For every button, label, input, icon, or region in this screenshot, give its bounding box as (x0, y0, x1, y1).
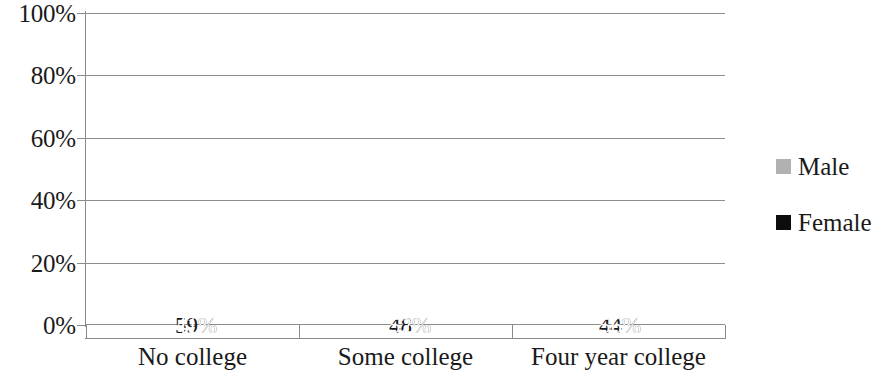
y-axis-label-80: 80% (2, 63, 76, 88)
x-axis-label-four-year-college: Four year college (512, 343, 725, 371)
gridline-100 (85, 13, 725, 14)
x-axis-tick-end (725, 325, 726, 338)
y-axis-tick-0 (77, 325, 85, 326)
y-axis-label-20: 20% (2, 251, 76, 276)
y-axis-label-100: 100% (2, 1, 76, 26)
gridline-40 (85, 200, 725, 201)
bar-label-female-four-year-college: 56% (575, 314, 665, 337)
y-axis-tick-80 (77, 75, 85, 76)
stacked-bar-chart: 100% 80% 60% 40% 20% 0% 59% 41% (0, 0, 882, 375)
legend-item-female[interactable]: Female (776, 194, 882, 250)
gridline-60 (85, 138, 725, 139)
bar-label-female-no-college: 41% (151, 314, 241, 337)
x-axis-tick-1 (299, 325, 300, 338)
y-axis-tick-40 (77, 200, 85, 201)
x-axis-tick-start (86, 325, 87, 338)
y-axis-labels: 100% 80% 60% 40% 20% 0% (0, 0, 76, 375)
legend-item-male[interactable]: Male (776, 138, 882, 194)
y-axis-tick-100 (77, 13, 85, 14)
y-axis-label-40: 40% (2, 188, 76, 213)
x-axis-label-some-college: Some college (299, 343, 512, 371)
legend-label-female: Female (798, 210, 872, 235)
bar-label-female-some-college: 52% (365, 314, 455, 337)
plot-area: 59% 41% 48% 52% 44% 56% (85, 13, 725, 325)
x-axis-tick-2 (512, 325, 513, 338)
legend-swatch-female-icon (776, 215, 791, 230)
y-axis-tick-20 (77, 263, 85, 264)
x-axis-line (85, 338, 726, 339)
x-axis-label-no-college: No college (86, 343, 299, 371)
gridline-80 (85, 75, 725, 76)
chart-legend: Male Female (776, 138, 882, 250)
gridline-20 (85, 263, 725, 264)
y-axis-label-0: 0% (2, 313, 76, 338)
y-axis-tick-60 (77, 138, 85, 139)
legend-label-male: Male (798, 154, 849, 179)
y-axis-label-60: 60% (2, 126, 76, 151)
legend-swatch-male-icon (776, 159, 791, 174)
